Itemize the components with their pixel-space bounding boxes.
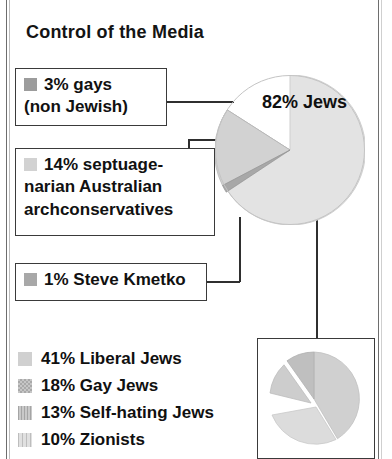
legend-label-gay-jews: 18% Gay Jews <box>41 376 158 396</box>
frame-border-left-inner <box>9 0 10 459</box>
main-pie-label-jews: 82% Jews <box>262 92 347 113</box>
callout-gays: 3% gays (non Jewish) <box>15 68 167 126</box>
callout-gays-line2: (non Jewish) <box>24 96 158 118</box>
subpie-box <box>257 338 375 459</box>
leader-line-subpie <box>316 218 318 338</box>
legend-item-zionists: 10% Zionists <box>18 426 253 453</box>
callout-steve-line1: 1% Steve Kmetko <box>24 269 198 291</box>
frame-border-left <box>6 0 7 459</box>
legend: 41% Liberal Jews 18% Gay Jews 13% Self-h… <box>18 345 253 453</box>
legend-item-liberal-jews: 41% Liberal Jews <box>18 345 253 372</box>
legend-label-self-hating-jews: 13% Self-hating Jews <box>41 403 214 423</box>
callout-sept-line1: 14% septuage- <box>24 154 206 176</box>
legend-label-zionists: 10% Zionists <box>41 430 145 450</box>
leader-line-steve-vertical <box>239 217 241 282</box>
callout-gays-line1: 3% gays <box>24 74 158 96</box>
gays-swatch <box>24 78 37 91</box>
gay-jews-swatch-icon <box>18 379 32 393</box>
legend-item-gay-jews: 18% Gay Jews <box>18 372 253 399</box>
callout-septuagenarian: 14% septuage- narian Australian archcons… <box>15 148 215 236</box>
steve-kmetko-swatch <box>24 273 37 286</box>
page-title: Control of the Media <box>26 22 204 43</box>
legend-label-liberal-jews: 41% Liberal Jews <box>41 349 182 369</box>
self-hating-jews-swatch-icon <box>18 406 32 420</box>
callout-steve-kmetko: 1% Steve Kmetko <box>15 263 207 301</box>
frame-border-right <box>378 0 379 459</box>
leader-line-steve-horizontal <box>207 281 240 283</box>
legend-item-self-hating-jews: 13% Self-hating Jews <box>18 399 253 426</box>
callout-sept-line3: archconservatives <box>24 199 206 221</box>
sub-pie-chart <box>264 349 364 449</box>
septuagenarian-swatch <box>24 158 37 171</box>
media-control-pie-figure: Control of the Media 82% Jews 3% gays (n… <box>0 0 392 459</box>
frame-border-right-inner <box>381 0 382 459</box>
liberal-jews-swatch-icon <box>18 352 32 366</box>
callout-sept-line2: narian Australian <box>24 176 206 198</box>
zionists-swatch-icon <box>18 433 32 447</box>
